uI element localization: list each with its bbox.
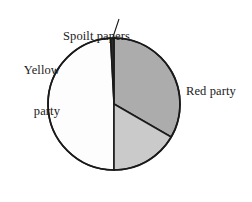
pie-label-yellow-party-line2: party xyxy=(2,105,60,119)
pie-label-yellow-party: Yellow party xyxy=(2,37,60,145)
pie-chart-figure: Spoilt papers Yellow party Red party Blu… xyxy=(0,0,252,202)
pie-label-spoilt-papers-line1: Spoilt papers xyxy=(63,30,130,44)
pie-label-blue-party: Blue party xyxy=(63,178,116,202)
pie-label-red-party-line1: Red party xyxy=(186,85,236,99)
pie-label-spoilt-papers: Spoilt papers xyxy=(63,3,130,71)
pie-label-yellow-party-line1: Yellow xyxy=(2,64,60,78)
pie-label-red-party: Red party xyxy=(186,58,236,126)
